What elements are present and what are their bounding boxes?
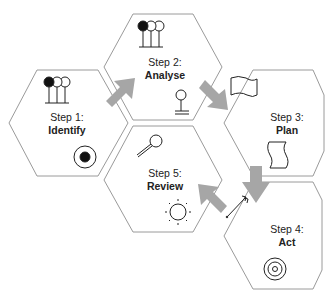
step-2-number: Step 2: — [120, 56, 210, 69]
step-1-name: Identify — [22, 124, 112, 137]
step-3-number: Step 3: — [242, 111, 326, 124]
step-3-name: Plan — [242, 124, 326, 137]
step-1-number: Step 1: — [22, 111, 112, 124]
step-4-label: Step 4: Act — [242, 223, 326, 249]
step-4-number: Step 4: — [242, 223, 326, 236]
hexagon-cycle-diagram — [0, 0, 326, 299]
step-1-label: Step 1: Identify — [22, 111, 112, 137]
step-5-label: Step 5: Review — [120, 167, 210, 193]
step-3-label: Step 3: Plan — [242, 111, 326, 137]
step-5-name: Review — [120, 180, 210, 193]
step-2-label: Step 2: Analyse — [120, 56, 210, 82]
step-5-number: Step 5: — [120, 167, 210, 180]
step-4-name: Act — [242, 236, 326, 249]
step-2-name: Analyse — [120, 69, 210, 82]
